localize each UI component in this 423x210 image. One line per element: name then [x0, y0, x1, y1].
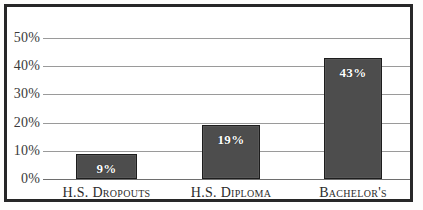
- bar-value-label: 19%: [203, 132, 259, 148]
- category-label-bachelors: Bachelor's: [263, 185, 423, 201]
- ytick-label-40: 40%: [14, 58, 40, 74]
- ytick-label-20: 20%: [14, 114, 40, 130]
- chart-frame: 50% 40% 30% 20% 10% 0% 9% 19%: [4, 4, 413, 202]
- ytick-label-30: 30%: [14, 86, 40, 102]
- bar-bachelors[interactable]: 43%: [324, 58, 382, 179]
- bar-h-s-diploma[interactable]: 19%: [202, 125, 260, 179]
- bar-value-label: 9%: [77, 161, 136, 177]
- gridline-0-baseline: 0%: [43, 179, 410, 180]
- plot-area: 50% 40% 30% 20% 10% 0% 9% 19%: [43, 38, 410, 179]
- bar-h-s-dropouts[interactable]: 9%: [76, 154, 137, 179]
- gridline-50: 50%: [43, 38, 410, 39]
- bar-value-label: 43%: [325, 65, 381, 81]
- ytick-label-50: 50%: [14, 30, 40, 46]
- bar-chart: 50% 40% 30% 20% 10% 0% 9% 19%: [0, 0, 423, 210]
- ytick-label-10: 10%: [14, 142, 40, 158]
